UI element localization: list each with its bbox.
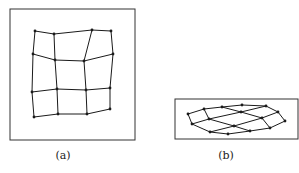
grid-node xyxy=(284,120,287,123)
grid-edge xyxy=(34,114,58,117)
grid-edge xyxy=(192,119,209,124)
grid-edge xyxy=(270,121,285,128)
grid-node xyxy=(109,87,112,90)
grid-node xyxy=(191,123,194,126)
grid-node xyxy=(53,33,56,36)
grid-edge xyxy=(204,109,209,119)
grid-edge xyxy=(32,92,34,117)
panel-frame xyxy=(10,9,135,140)
grid-edge xyxy=(234,126,250,131)
grid-node xyxy=(249,130,252,133)
grid-edge xyxy=(209,112,241,119)
grid-node xyxy=(109,108,112,111)
grid-node xyxy=(34,30,37,33)
grid-edge xyxy=(55,60,84,61)
grid-node xyxy=(241,104,244,107)
grid-node xyxy=(54,59,57,62)
panel-b xyxy=(175,99,298,139)
grid-node xyxy=(203,108,206,111)
grid-node xyxy=(91,29,94,32)
grid-edge xyxy=(33,31,35,54)
grid-edge xyxy=(250,128,270,131)
grid-node xyxy=(209,131,212,134)
grid-edge xyxy=(110,54,113,88)
grid-node xyxy=(110,30,113,33)
grid-edge xyxy=(228,131,250,134)
grid-node xyxy=(261,117,264,120)
grid-node xyxy=(33,116,36,119)
panel-a-label: (a) xyxy=(55,149,70,162)
grid-edge xyxy=(32,54,33,92)
grid-edge xyxy=(262,112,278,118)
grid-edge xyxy=(87,109,110,114)
grid-edge xyxy=(241,106,266,112)
grid-node xyxy=(86,113,89,116)
grid-node xyxy=(57,113,60,116)
grid-edge xyxy=(84,30,92,61)
grid-node xyxy=(277,111,280,114)
grid-node xyxy=(112,53,115,56)
grid-edge xyxy=(241,112,262,118)
grid-edge xyxy=(54,30,92,34)
grid-edge xyxy=(55,60,57,89)
grid-node xyxy=(85,89,88,92)
grid-node xyxy=(221,106,224,109)
grid-edge xyxy=(266,106,278,112)
grid-edge xyxy=(234,118,262,126)
grid-edge xyxy=(32,89,57,92)
grid-edge xyxy=(57,89,86,90)
grid-edge xyxy=(33,54,55,60)
grid-node xyxy=(227,133,230,136)
grid-edge xyxy=(57,89,58,114)
figure-canvas xyxy=(0,0,299,173)
grid-edge xyxy=(54,34,55,60)
grid-edge xyxy=(84,61,86,90)
grid-node xyxy=(233,125,236,128)
grid-node xyxy=(265,105,268,108)
grid-edge xyxy=(222,105,242,107)
grid-edge xyxy=(86,90,87,114)
grid-edge xyxy=(262,118,270,128)
grid-edge xyxy=(86,88,110,90)
grid-edge xyxy=(188,109,204,114)
grid-edge xyxy=(222,107,241,112)
grid-edge xyxy=(188,114,192,124)
panel-a xyxy=(10,9,135,140)
grid-edge xyxy=(242,105,266,106)
grid-node xyxy=(208,118,211,121)
grid-edge xyxy=(210,132,228,134)
grid-edge xyxy=(111,31,113,54)
grid-edge xyxy=(35,31,54,34)
grid-node xyxy=(269,127,272,130)
grid-edge xyxy=(192,124,210,132)
grid-node xyxy=(240,111,243,114)
grid-node xyxy=(83,60,86,63)
grid-edge xyxy=(204,107,222,109)
grid-edge xyxy=(278,112,285,121)
grid-node xyxy=(32,53,35,56)
grid-edge xyxy=(84,54,113,61)
grid-node xyxy=(31,91,34,94)
grid-edge xyxy=(209,119,234,126)
panel-b-label: (b) xyxy=(218,149,234,162)
grid-edge xyxy=(92,30,111,31)
grid-node xyxy=(56,88,59,91)
grid-edge xyxy=(210,126,234,132)
grid-node xyxy=(187,113,190,116)
